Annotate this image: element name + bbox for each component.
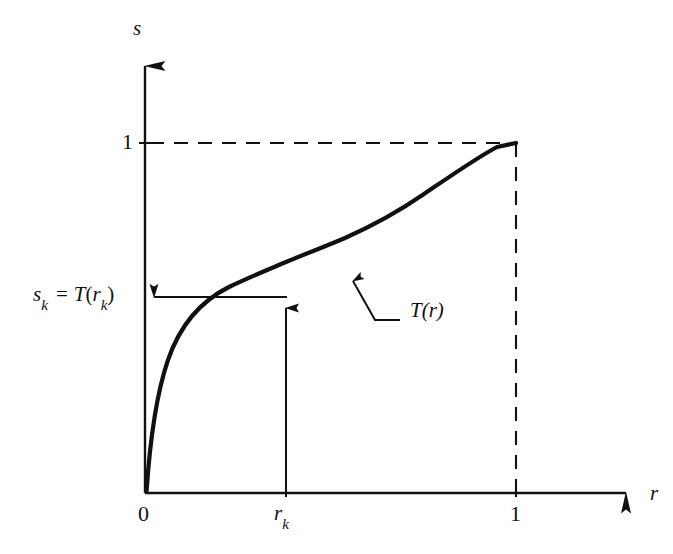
x-tick-label-rk: rk	[274, 503, 289, 528]
sk-formula-r: r	[92, 282, 100, 306]
sk-formula-close-paren: )	[107, 282, 114, 306]
figure-canvas	[0, 0, 673, 554]
sk-formula-equals: =	[56, 282, 68, 306]
sk-formula-label: sk=T(rk)	[33, 284, 114, 309]
y-axis-label: s	[133, 18, 141, 39]
curve-callout-leader	[353, 281, 400, 320]
sk-formula-s: s	[33, 282, 41, 306]
curve-callout-t: T	[410, 298, 422, 322]
transformation-function-figure: s r 0 rk 1 1 sk=T(rk) T(r)	[0, 0, 673, 554]
x-tick-label-rk-subscript: k	[282, 516, 289, 532]
transformation-curve	[147, 143, 517, 492]
sk-formula-t: T	[74, 282, 86, 306]
curve-callout-arg: (r)	[422, 298, 444, 322]
curve-callout-label: T(r)	[410, 300, 444, 321]
x-tick-label-rk-base: r	[274, 501, 282, 525]
x-tick-label-origin: 0	[138, 503, 149, 525]
x-tick-label-one: 1	[510, 503, 521, 525]
y-tick-label-one: 1	[122, 131, 133, 153]
x-axis-label: r	[650, 483, 658, 504]
sk-formula-r-subscript: k	[101, 297, 108, 313]
sk-formula-s-subscript: k	[41, 297, 48, 313]
